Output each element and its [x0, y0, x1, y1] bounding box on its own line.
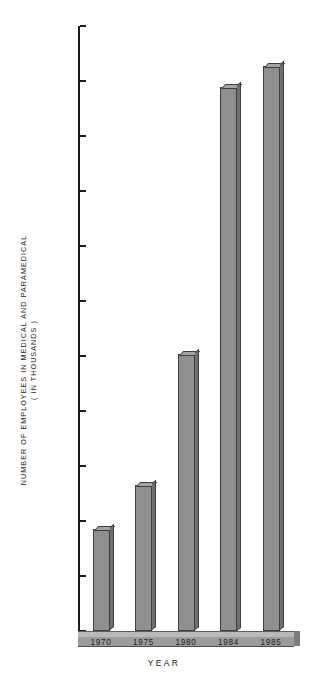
bar-1985	[263, 66, 280, 631]
y-tick-50	[80, 80, 86, 82]
y-tick-40	[80, 190, 86, 192]
y-axis-title-line1: NUMBER OF EMPLOYEES IN MEDICAL AND PARAM…	[19, 235, 28, 485]
y-tick-45	[80, 135, 86, 137]
y-axis-title-line2: ( IN THOUSANDS )	[29, 320, 38, 400]
y-tick-20	[80, 410, 86, 412]
y-tick-35	[80, 245, 86, 247]
y-axis-line	[78, 26, 80, 631]
bar-side-face	[237, 81, 241, 630]
plot-area: 0510152025303540455055	[78, 26, 300, 631]
y-tick-25	[80, 355, 86, 357]
bar-1970	[93, 529, 110, 631]
bar-side-face	[152, 480, 156, 630]
y-axis-title: NUMBER OF EMPLOYEES IN MEDICAL AND PARAM…	[14, 180, 44, 540]
bar-side-face	[110, 524, 114, 630]
y-tick-15	[80, 465, 86, 467]
bar-1975	[135, 485, 152, 631]
y-tick-5	[80, 575, 86, 577]
y-tick-10	[80, 520, 86, 522]
x-tick-label-1985: 1985	[241, 638, 301, 647]
bar-1984	[220, 87, 237, 632]
bar-side-face	[195, 349, 199, 630]
y-tick-30	[80, 300, 86, 302]
bar-chart: NUMBER OF EMPLOYEES IN MEDICAL AND PARAM…	[0, 0, 328, 682]
y-tick-55	[80, 25, 86, 27]
bar-side-face	[280, 60, 284, 630]
bar-1980	[178, 354, 195, 631]
x-axis-title: YEAR	[0, 658, 328, 668]
